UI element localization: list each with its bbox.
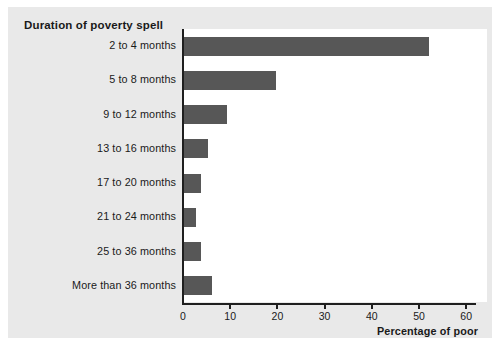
bar [184,105,227,124]
bar [184,139,208,158]
category-label: 5 to 8 months [6,73,176,85]
bar [184,276,212,295]
category-label: 25 to 36 months [6,245,176,257]
axis-tick [229,303,231,309]
axis-tick-label: 40 [366,310,378,322]
axis-tick-label: 10 [224,310,236,322]
bar [184,71,276,90]
axis-tick-label: 0 [180,310,186,322]
bar [184,37,429,56]
axis-tick [465,303,467,309]
axis-tick-label: 20 [272,310,284,322]
category-label: 21 to 24 months [6,210,176,222]
axis-tick-label: 30 [319,310,331,322]
category-label: 9 to 12 months [6,108,176,120]
bar [184,208,196,227]
category-axis-line [182,29,184,305]
axis-tick-label: 50 [413,310,425,322]
axis-tick [418,303,420,309]
category-axis-labels: 2 to 4 months5 to 8 months9 to 12 months… [4,29,176,303]
x-axis-title: Percentage of poor [377,325,478,337]
value-axis-line [182,303,476,305]
bar [184,174,201,193]
chart-figure: Duration of poverty spell 2 to 4 months5… [0,0,500,346]
bar [184,242,201,261]
category-label: 17 to 20 months [6,176,176,188]
category-label: More than 36 months [6,279,176,291]
category-label: 13 to 16 months [6,142,176,154]
axis-tick-label: 60 [460,310,472,322]
axis-tick [324,303,326,309]
axis-tick [371,303,373,309]
category-label: 2 to 4 months [6,39,176,51]
axis-tick [276,303,278,309]
bar-series [184,29,487,303]
